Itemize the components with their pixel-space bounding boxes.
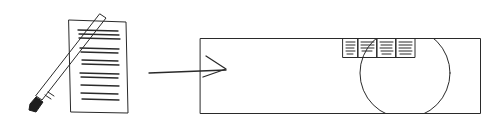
- paint-brush-icon: [29, 14, 106, 112]
- arrow-right-icon: [149, 56, 226, 77]
- diagram-canvas: [0, 0, 502, 123]
- text-tiles: [343, 39, 415, 58]
- canvas-frame: [201, 39, 481, 114]
- document-icon: [69, 20, 128, 113]
